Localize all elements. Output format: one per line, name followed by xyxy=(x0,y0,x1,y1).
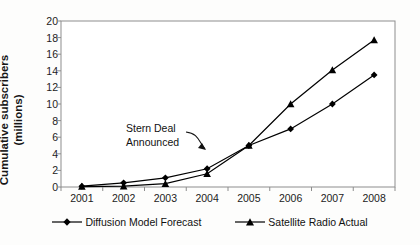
plot-area xyxy=(0,0,420,245)
chart-container: Cumulative subscribers (millions) 024681… xyxy=(0,0,420,245)
legend-label-satellite: Satellite Radio Actual xyxy=(267,216,367,228)
x-tick-label: 2003 xyxy=(142,192,188,204)
legend-label-diffusion: Diffusion Model Forecast xyxy=(84,216,201,228)
legend-marker-diamond-icon xyxy=(52,216,82,228)
chart-legend: Diffusion Model Forecast Satellite Radio… xyxy=(0,216,420,228)
annotation-stern-deal: Stern Deal Announced xyxy=(126,122,179,149)
x-tick-marks xyxy=(61,187,395,191)
x-tick-label: 2005 xyxy=(226,192,272,204)
plot-frame xyxy=(61,21,395,187)
x-tick-label: 2007 xyxy=(309,192,355,204)
legend-marker-triangle-icon xyxy=(235,216,265,228)
legend-item-satellite[interactable]: Satellite Radio Actual xyxy=(235,216,367,228)
x-tick-label: 2006 xyxy=(268,192,314,204)
y-tick-marks xyxy=(57,21,61,187)
x-tick-label: 2001 xyxy=(59,192,105,204)
x-tick-label: 2004 xyxy=(184,192,230,204)
x-tick-label: 2002 xyxy=(101,192,147,204)
annotation-line1: Stern Deal xyxy=(126,122,179,136)
legend-item-diffusion[interactable]: Diffusion Model Forecast xyxy=(52,216,201,228)
x-tick-label: 2008 xyxy=(351,192,397,204)
annotation-line2: Announced xyxy=(126,136,179,150)
